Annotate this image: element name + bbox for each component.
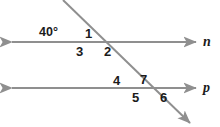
- line-label-p: p: [203, 81, 210, 95]
- angle-4-label: 4: [113, 74, 120, 87]
- angle-40-label: 40°: [39, 26, 58, 39]
- angle-7-label: 7: [140, 73, 147, 86]
- geometry-diagram: 40°1324756np: [0, 0, 220, 127]
- transversal-line: [63, 0, 190, 123]
- line-label-n: n: [203, 35, 211, 49]
- angle-5-label: 5: [132, 91, 139, 104]
- angle-2-label: 2: [104, 45, 111, 58]
- geometry-canvas: [0, 0, 220, 127]
- angle-3-label: 3: [76, 45, 83, 58]
- angle-1-label: 1: [85, 27, 92, 40]
- angle-6-label: 6: [160, 91, 167, 104]
